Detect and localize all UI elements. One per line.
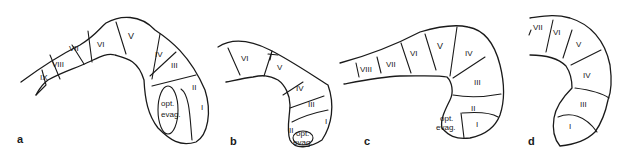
segment-label: VI: [241, 54, 249, 63]
segment-label: III: [308, 100, 315, 109]
region-label: opt.: [296, 129, 309, 138]
panel-letter: d: [528, 135, 535, 147]
segment-label: VII: [69, 44, 79, 53]
panel-d: VII VI V IV III I d: [528, 16, 611, 147]
region-label: opt.: [161, 99, 174, 108]
segment-label: V: [576, 40, 582, 49]
region-label: opt.: [440, 114, 453, 123]
segment-label: VII: [533, 23, 543, 32]
segment-label: IV: [583, 71, 591, 80]
segment-label: I: [476, 120, 478, 129]
panel-b-outline: [218, 41, 332, 147]
region-label: evag.: [436, 123, 456, 132]
figure-canvas: IX VIII VII VI V IV III II I opt. evag. …: [0, 0, 629, 161]
segment-label: VIII: [360, 65, 372, 74]
segment-label: I: [325, 117, 327, 126]
segment-label: III: [474, 78, 481, 87]
panel-letter: c: [364, 135, 370, 147]
segment-label: IX: [40, 73, 48, 82]
segment-label: IV: [296, 84, 304, 93]
panel-a: IX VIII VII VI V IV III II I opt. evag. …: [17, 17, 208, 145]
segment-label: III: [580, 100, 587, 109]
segment-label: VII: [386, 60, 396, 69]
segment-label: I: [569, 122, 571, 131]
region-label: evag.: [293, 138, 313, 147]
segment-label: I: [201, 103, 203, 112]
segment-label: VIII: [52, 60, 64, 69]
segment-label: V: [437, 41, 443, 51]
panel-b: VI V IV III II I opt. evag. b: [218, 41, 332, 147]
segment-label: VI: [410, 49, 418, 58]
panel-c: VIII VII VI V IV III II I opt. evag. c: [340, 26, 504, 147]
panel-letter: b: [230, 135, 237, 147]
region-label: evag.: [161, 110, 181, 119]
panel-letter: a: [17, 133, 24, 145]
segment-label: V: [128, 31, 134, 41]
segment-label: II: [289, 126, 293, 135]
segment-label: V: [277, 63, 283, 72]
segment-label: IV: [465, 49, 473, 58]
segment-label: III: [171, 61, 178, 70]
segment-label: VI: [553, 28, 561, 37]
segment-label: II: [471, 104, 475, 113]
segment-label: II: [192, 83, 196, 92]
segment-label: IV: [155, 50, 163, 59]
segment-label: VI: [97, 40, 105, 49]
panel-a-outline: [21, 17, 208, 143]
